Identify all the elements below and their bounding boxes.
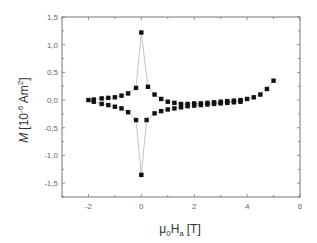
- data-point-square: [199, 103, 203, 107]
- data-point-square: [185, 104, 189, 108]
- data-point-square: [225, 101, 229, 105]
- data-point-square: [146, 85, 150, 89]
- data-point-square: [271, 78, 275, 82]
- axis-tick-labels: -202461,51,00,50,0-0,5-1,0-1,5: [44, 13, 303, 211]
- data-point-square: [258, 92, 262, 96]
- data-point-square: [134, 118, 138, 122]
- data-point-square: [166, 107, 170, 111]
- data-point-square: [139, 173, 143, 177]
- data-point-square: [126, 110, 130, 114]
- x-axis-title: μ0Ha[T]: [159, 222, 201, 238]
- data-point-square: [172, 101, 176, 105]
- y-tick-label: 0,0: [47, 96, 59, 105]
- data-point-square: [245, 97, 249, 101]
- series-markers: [86, 30, 276, 177]
- y-axis-title: M[10-6 Am2]: [16, 77, 31, 142]
- y-tick-label: 1,5: [47, 13, 59, 22]
- data-point-square: [159, 97, 163, 101]
- x-tick-label: -2: [85, 202, 93, 211]
- magnetization-chart: -202461,51,00,50,0-0,5-1,0-1,5 μ0Ha[T] M…: [0, 0, 317, 243]
- data-point-square: [238, 100, 242, 104]
- data-point-square: [252, 95, 256, 99]
- data-point-square: [92, 100, 96, 104]
- x-tick-label: 2: [192, 202, 197, 211]
- data-point-square: [192, 103, 196, 107]
- data-point-square: [218, 101, 222, 105]
- x-tick-label: 6: [298, 202, 303, 211]
- data-point-square: [113, 105, 117, 109]
- data-point-square: [134, 86, 138, 90]
- data-point-square: [166, 100, 170, 104]
- data-point-square: [99, 102, 103, 106]
- data-point-square: [126, 91, 130, 95]
- x-tick-label: 0: [139, 202, 144, 211]
- data-point-square: [119, 106, 123, 110]
- data-point-square: [159, 109, 163, 113]
- data-point-square: [99, 96, 103, 100]
- data-point-square: [139, 30, 143, 34]
- data-point-square: [106, 96, 110, 100]
- series-line: [94, 102, 241, 175]
- data-point-square: [106, 103, 110, 107]
- y-tick-label: -1,0: [44, 151, 58, 160]
- data-point-square: [172, 106, 176, 110]
- series-line: [88, 33, 273, 105]
- y-tick-label: 1,0: [47, 41, 59, 50]
- data-point-square: [212, 102, 216, 106]
- data-point-square: [144, 118, 148, 122]
- data-point-square: [86, 98, 90, 102]
- data-point-square: [232, 100, 236, 104]
- data-point-square: [205, 102, 209, 106]
- data-point-square: [152, 111, 156, 115]
- data-point-square: [179, 105, 183, 109]
- y-tick-label: 0,5: [47, 68, 59, 77]
- data-point-square: [119, 93, 123, 97]
- y-tick-label: -1,5: [44, 179, 58, 188]
- data-point-square: [152, 92, 156, 96]
- x-tick-label: 4: [245, 202, 250, 211]
- data-point-square: [265, 87, 269, 91]
- y-tick-label: -0,5: [44, 124, 58, 133]
- data-point-square: [113, 95, 117, 99]
